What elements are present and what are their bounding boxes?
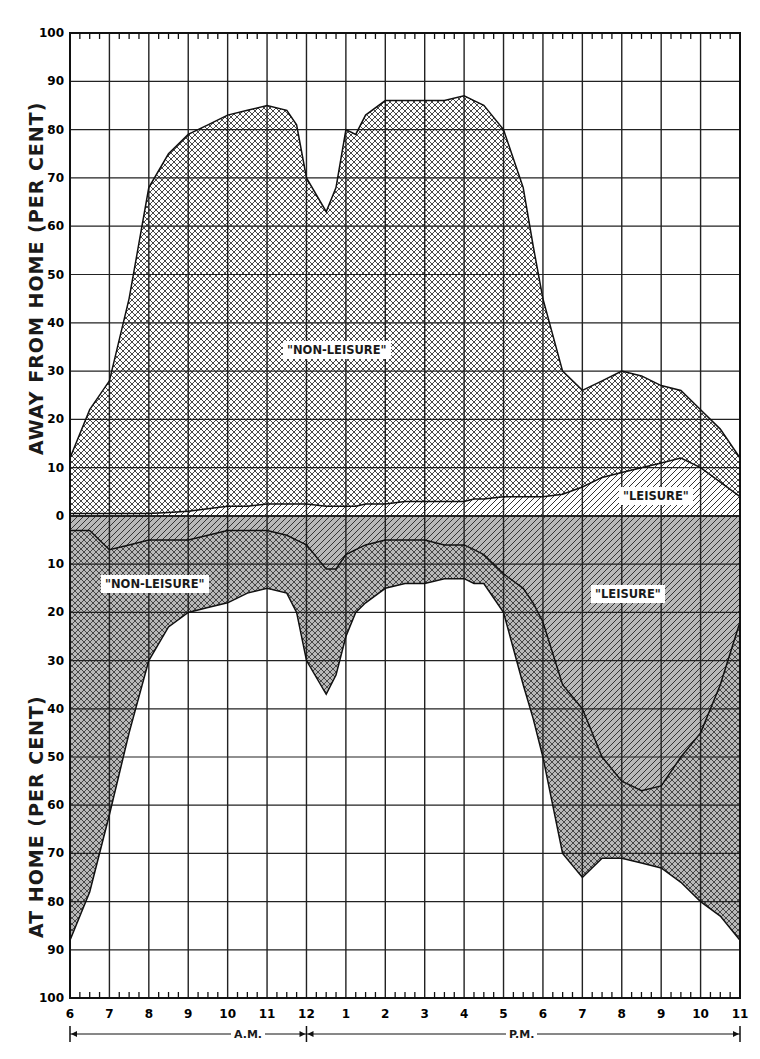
label-away-leisure: "LEISURE": [619, 487, 693, 505]
x-tick-label: 6: [539, 1007, 547, 1021]
arrow-head: [71, 1031, 77, 1037]
x-tick-label: 7: [105, 1007, 113, 1021]
label-away-nonleisure: "NON-LEISURE": [283, 341, 391, 359]
x-tick-label: 3: [421, 1007, 429, 1021]
y-tick-label: 60: [47, 219, 64, 233]
grid-lines: [70, 33, 740, 998]
y-tick-label: 80: [47, 895, 64, 909]
arrow-head: [307, 1031, 313, 1037]
x-tick-label: 6: [66, 1007, 74, 1021]
x-tick-label: 8: [618, 1007, 626, 1021]
activity-area-chart: 1009080706050403020100102030405060708090…: [0, 0, 760, 1059]
y-tick-label: 60: [47, 798, 64, 812]
x-tick-label: 1: [342, 1007, 350, 1021]
y-tick-label: 70: [47, 846, 64, 860]
x-tick-label: 9: [184, 1007, 192, 1021]
y-tick-label: 10: [47, 557, 64, 571]
label-home-leisure: "LEISURE": [591, 585, 665, 603]
x-tick-label: 9: [657, 1007, 665, 1021]
y-tick-label: 30: [47, 654, 64, 668]
x-tick-label: 5: [499, 1007, 507, 1021]
y-tick-label: 0: [56, 509, 64, 523]
y-tick-label: 80: [47, 123, 64, 137]
y-tick-label: 20: [47, 412, 64, 426]
y-tick-label: 50: [47, 268, 64, 282]
label-home-nonleisure: "NON-LEISURE": [101, 575, 209, 593]
y-tick-label: 70: [47, 171, 64, 185]
y-tick-label: 40: [47, 702, 64, 716]
y-tick-label: 100: [39, 26, 64, 40]
x-tick-label: 12: [298, 1007, 315, 1021]
x-tick-label: 10: [692, 1007, 709, 1021]
x-tick-label: 11: [732, 1007, 749, 1021]
arrow-head: [299, 1031, 305, 1037]
am-label: A.M.: [231, 1028, 265, 1041]
y-tick-label: 90: [47, 943, 64, 957]
x-tick-label: 8: [145, 1007, 153, 1021]
y-tick-label: 90: [47, 74, 64, 88]
y-tick-label: 10: [47, 461, 64, 475]
x-tick-label: 10: [219, 1007, 236, 1021]
y-tick-label: 40: [47, 316, 64, 330]
x-tick-label: 7: [578, 1007, 586, 1021]
y-axis-label-home: AT HOME (PER CENT): [25, 695, 47, 938]
area-away-nonleisure: [70, 96, 740, 514]
y-tick-label: 30: [47, 364, 64, 378]
x-tick-label: 2: [381, 1007, 389, 1021]
pm-label: P.M.: [506, 1028, 537, 1041]
y-tick-label: 100: [39, 991, 64, 1005]
y-tick-label: 50: [47, 750, 64, 764]
x-tick-label: 11: [259, 1007, 276, 1021]
y-tick-label: 20: [47, 605, 64, 619]
x-tick-label: 4: [460, 1007, 468, 1021]
y-axis-label-away: AWAY FROM HOME (PER CENT): [25, 102, 47, 455]
arrow-head: [733, 1031, 739, 1037]
